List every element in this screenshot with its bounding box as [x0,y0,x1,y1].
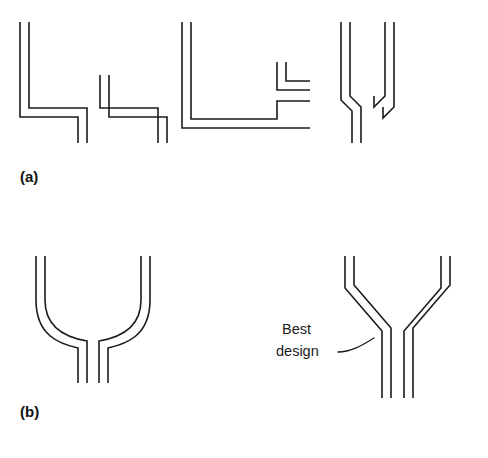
best-design-callout: Best design [276,321,374,359]
panel-b-right-gradual-angled-y-junction [345,256,450,398]
panel-a-middle-square-elbow-branch-duct [182,22,310,128]
duct-junction-diagram: (a) (b) Best design [0,0,488,458]
duct-wall [354,256,391,398]
duct-wall [182,22,310,128]
duct-wall [374,22,385,107]
duct-wall [108,256,150,383]
callout-leader-line [338,338,374,352]
duct-wall [99,256,141,383]
duct-wall [413,256,450,398]
duct-wall [277,62,310,90]
duct-wall [404,256,441,398]
duct-wall [36,256,78,383]
panel-b-left-curved-y-junction [36,256,150,383]
row-a-group: (a) [20,22,394,185]
panel-a-left-sharp-corner-y-junction [20,22,167,143]
duct-wall [345,256,382,398]
duct-wall [45,256,87,383]
row-label-a: (a) [20,168,38,185]
duct-wall [191,22,310,119]
panel-a-right-chamfered-y-junction [341,22,394,143]
technical-figure: (a) (b) Best design [0,0,488,458]
row-b-group: (b) [20,256,450,420]
duct-wall [286,62,310,81]
row-label-b: (b) [20,403,39,420]
best-design-label-line2: design [276,343,319,359]
best-design-label-line1: Best [282,321,311,337]
